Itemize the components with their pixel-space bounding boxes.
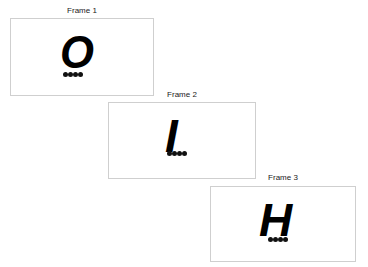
frame-1-box: O [10,18,154,96]
frame-1-dots [63,72,83,77]
frame-1-letter: O [60,29,94,75]
dot [283,237,288,242]
frame-3-box: H [210,186,356,262]
frame-2-dots [167,151,187,156]
dot [78,72,83,77]
frame-3-dots [268,237,288,242]
frame-1-label: Frame 1 [60,6,104,15]
frame-3-label: Frame 3 [261,173,305,182]
frame-2-box: I [108,102,256,179]
dot [182,151,187,156]
frame-2-label: Frame 2 [160,90,204,99]
